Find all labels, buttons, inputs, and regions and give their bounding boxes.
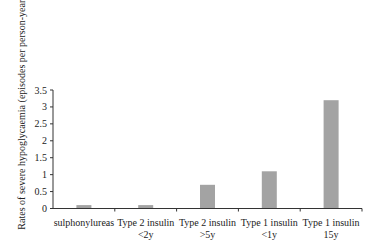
- x-category-label: 15y: [324, 229, 339, 240]
- bar-4: [324, 100, 339, 208]
- x-category-label: Type 2 insulin: [179, 217, 236, 228]
- y-tick-label: 0.5: [35, 186, 48, 197]
- y-tick-label: 2.5: [35, 118, 48, 129]
- bars: [76, 100, 338, 208]
- y-tick-label: 0: [42, 203, 47, 214]
- bar-3: [262, 171, 277, 208]
- chart-canvas: Rates of severe hypoglycaemia (episodes …: [0, 0, 381, 252]
- x-axis: sulphonylureasType 2 insulin<2yType 2 in…: [53, 209, 362, 241]
- y-tick-label: 3: [42, 101, 47, 112]
- x-category-label: sulphonylureas: [54, 217, 115, 228]
- y-tick-label: 1.5: [35, 152, 48, 163]
- bar-1: [138, 205, 153, 208]
- y-tick-label: 1: [42, 169, 47, 180]
- bar-0: [76, 205, 91, 208]
- bar-chart: Rates of severe hypoglycaemia (episodes …: [0, 0, 381, 252]
- y-tick-label: 3.5: [35, 85, 48, 96]
- x-category-label: Type 2 insulin: [117, 217, 174, 228]
- y-axis-title-group: Rates of severe hypoglycaemia (episodes …: [16, 0, 28, 230]
- x-category-label: Type 1 insulin: [241, 217, 298, 228]
- x-category-label: Type 1 insulin: [303, 217, 360, 228]
- y-axis-title: Rates of severe hypoglycaemia (episodes …: [16, 0, 28, 230]
- bar-2: [200, 185, 215, 209]
- y-axis: 00.511.522.533.5: [35, 85, 54, 215]
- y-tick-label: 2: [42, 135, 47, 146]
- x-category-label: >5y: [200, 229, 216, 240]
- x-category-label: <2y: [138, 229, 154, 240]
- x-category-label: <1y: [261, 229, 277, 240]
